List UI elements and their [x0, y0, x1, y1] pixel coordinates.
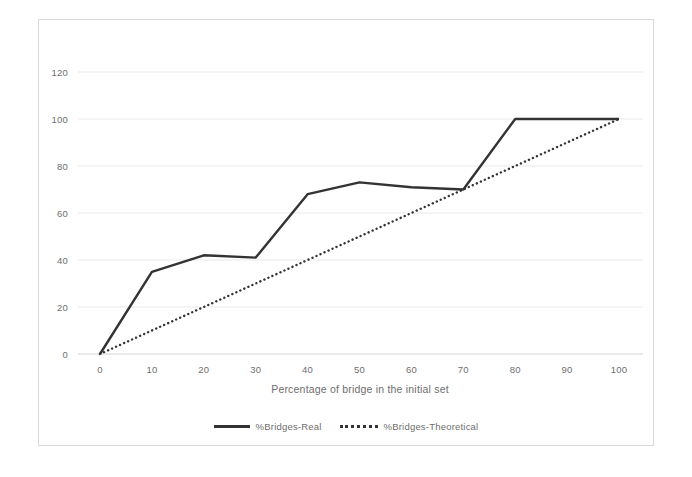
dotted-line-sample-icon	[340, 425, 378, 428]
x-tick-label-60: 60	[406, 364, 417, 375]
x-tick-labels-group: 0102030405060708090100	[97, 364, 627, 375]
y-tick-label-60: 60	[57, 208, 68, 219]
chart-svg: 020406080100120 0102030405060708090100	[0, 0, 692, 477]
x-tick-label-30: 30	[250, 364, 261, 375]
x-tick-label-100: 100	[611, 364, 627, 375]
y-tick-label-80: 80	[57, 161, 68, 172]
y-tick-label-0: 0	[63, 349, 68, 360]
x-axis-title: Percentage of bridge in the initial set	[100, 383, 620, 395]
y-tick-labels-group: 020406080100120	[52, 67, 68, 360]
legend-label-real: %Bridges-Real	[256, 421, 322, 432]
y-tick-label-20: 20	[57, 302, 68, 313]
legend-item-theoretical: %Bridges-Theoretical	[340, 421, 479, 432]
solid-line-sample-icon	[214, 425, 250, 428]
x-tick-label-0: 0	[97, 364, 102, 375]
series-line-theoretical	[100, 119, 619, 354]
x-tick-label-90: 90	[562, 364, 573, 375]
y-tick-label-100: 100	[52, 114, 68, 125]
x-tick-label-70: 70	[458, 364, 469, 375]
legend-item-real: %Bridges-Real	[214, 421, 322, 432]
chart-page: 020406080100120 0102030405060708090100 P…	[0, 0, 692, 477]
x-tick-label-80: 80	[510, 364, 521, 375]
x-tick-label-20: 20	[198, 364, 209, 375]
x-tick-label-50: 50	[354, 364, 365, 375]
gridlines-group	[78, 72, 643, 354]
x-tick-label-40: 40	[302, 364, 313, 375]
legend: %Bridges-Real %Bridges-Theoretical	[0, 421, 692, 432]
y-tick-label-40: 40	[57, 255, 68, 266]
x-tick-label-10: 10	[146, 364, 157, 375]
y-tick-label-120: 120	[52, 67, 68, 78]
legend-label-theoretical: %Bridges-Theoretical	[384, 421, 479, 432]
series-lines-group	[100, 119, 619, 354]
